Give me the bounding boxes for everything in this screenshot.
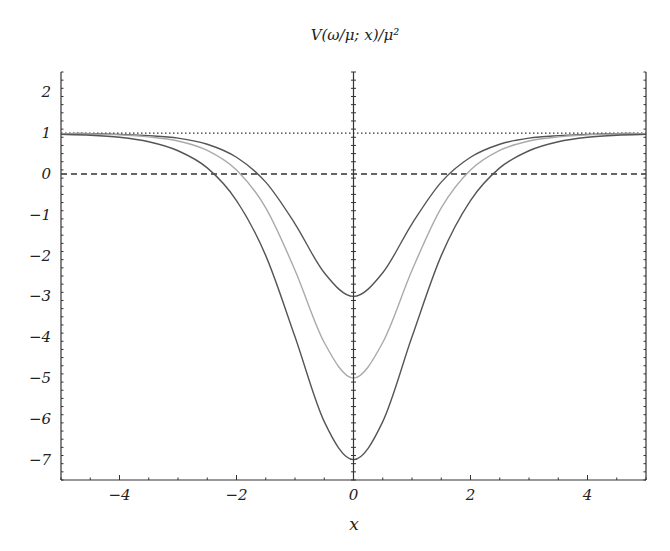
- y-tick-label: −1: [29, 206, 51, 224]
- y-tick-label: −5: [29, 369, 51, 387]
- x-axis-ticks: −4−2024: [61, 475, 646, 504]
- chart-title: V(ω/μ; x)/μ²: [311, 26, 400, 44]
- x-axis-label: x: [349, 514, 359, 534]
- y-tick-label: −6: [29, 410, 52, 428]
- y-tick-label: 0: [41, 165, 51, 183]
- x-tick-label: −2: [225, 486, 247, 504]
- x-tick-label: 0: [349, 486, 359, 504]
- x-tick-label: 4: [582, 486, 593, 504]
- y-tick-label: −3: [29, 287, 51, 305]
- y-tick-label: −2: [29, 247, 51, 265]
- y-tick-label: −7: [29, 451, 52, 469]
- y-tick-label: −4: [29, 328, 51, 346]
- y-tick-label: 1: [41, 124, 51, 142]
- y-tick-label: 2: [40, 83, 51, 101]
- x-tick-label: 2: [465, 486, 476, 504]
- x-tick-label: −4: [108, 486, 130, 504]
- potential-chart: V(ω/μ; x)/μ² 210−1−2−3−4−5−6−7 −4−2024 x: [0, 0, 670, 551]
